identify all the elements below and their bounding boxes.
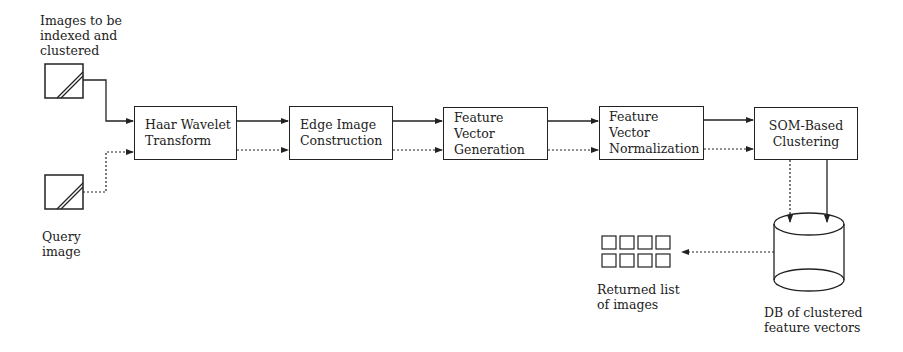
returned-list-label: Returned list of images xyxy=(597,282,680,312)
stage-som-based-clustering: SOM-Based Clustering xyxy=(754,107,858,160)
stage-feature-vector-generation: Feature Vector Generation xyxy=(443,107,548,160)
index-images-label: Images to be indexed and clustered xyxy=(40,13,122,58)
stage-feature-vector-normalization: Feature Vector Normalization xyxy=(599,106,704,160)
stage-label: Feature Vector Normalization xyxy=(600,109,703,157)
input-image-icon xyxy=(45,64,83,98)
stage-label: SOM-Based Clustering xyxy=(755,118,857,150)
stage-edge-image-construction: Edge Image Construction xyxy=(289,106,393,160)
database-label: DB of clustered feature vectors xyxy=(764,305,863,335)
returned-images-grid-icon xyxy=(602,236,670,267)
query-path-arrow xyxy=(83,152,133,192)
database-cylinder-icon xyxy=(774,213,844,291)
query-image-label: Query image xyxy=(42,229,81,259)
stage-haar-wavelet-transform: Haar Wavelet Transform xyxy=(134,106,237,160)
index-path-arrow xyxy=(83,80,133,121)
stage-label: Feature Vector Generation xyxy=(444,110,547,158)
query-image-icon xyxy=(45,175,83,209)
diagram-connectors xyxy=(0,0,903,352)
stage-label: Haar Wavelet Transform xyxy=(135,117,231,149)
stage-label: Edge Image Construction xyxy=(290,117,382,149)
